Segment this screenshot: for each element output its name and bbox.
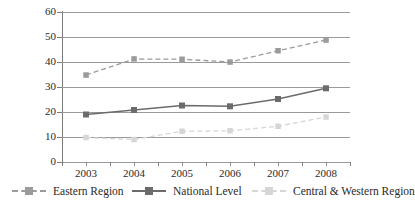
chart-legend: Eastern RegionNational LevelCentral & We… bbox=[0, 183, 391, 203]
x-axis-boundary-tick bbox=[254, 162, 255, 166]
data-point-marker bbox=[275, 48, 281, 54]
series-line bbox=[86, 40, 326, 75]
gridline bbox=[62, 12, 350, 13]
y-axis-tick-label: 0 bbox=[32, 156, 56, 167]
y-axis-tick bbox=[57, 137, 62, 138]
series-eastern-region bbox=[83, 37, 328, 78]
x-axis-boundary-tick bbox=[158, 162, 159, 166]
y-axis-tick bbox=[57, 87, 62, 88]
legend-marker-icon bbox=[145, 187, 153, 195]
x-axis-tick bbox=[326, 162, 327, 166]
gridline bbox=[62, 37, 350, 38]
data-point-marker bbox=[179, 103, 185, 109]
x-axis-tick-label: 2004 bbox=[114, 167, 154, 179]
x-axis-boundary-tick bbox=[62, 162, 63, 166]
gridline bbox=[62, 87, 350, 88]
y-axis-tick bbox=[57, 37, 62, 38]
legend-item-national-level[interactable]: National Level bbox=[132, 183, 242, 199]
x-axis-tick bbox=[86, 162, 87, 166]
x-axis-tick bbox=[182, 162, 183, 166]
legend-marker-icon bbox=[265, 187, 273, 195]
data-point-marker bbox=[323, 114, 329, 120]
y-axis-tick-label: 40 bbox=[32, 56, 56, 67]
data-point-marker bbox=[227, 103, 233, 109]
legend-swatch-icon bbox=[132, 185, 166, 197]
gridline bbox=[62, 112, 350, 113]
y-axis-tick-label: 30 bbox=[32, 81, 56, 92]
legend-swatch-icon bbox=[252, 185, 286, 197]
data-point-marker bbox=[83, 72, 89, 78]
legend-item-label: Central & Western Region bbox=[293, 184, 415, 198]
data-point-marker bbox=[275, 96, 281, 102]
x-axis-tick-label: 2008 bbox=[306, 167, 346, 179]
legend-item-eastern-region[interactable]: Eastern Region bbox=[12, 183, 124, 199]
y-axis-tick-label: 60 bbox=[32, 6, 56, 17]
y-axis-tick bbox=[57, 12, 62, 13]
series-line bbox=[86, 88, 326, 114]
x-axis-tick-label: 2007 bbox=[258, 167, 298, 179]
x-axis-boundary-tick bbox=[206, 162, 207, 166]
y-axis-tick-label: 50 bbox=[32, 31, 56, 42]
gridline bbox=[62, 137, 350, 138]
legend-marker-icon bbox=[25, 187, 33, 195]
legend-item-central-western-region[interactable]: Central & Western Region bbox=[252, 183, 415, 199]
x-axis-tick-label: 2006 bbox=[210, 167, 250, 179]
x-axis-tick-label: 2003 bbox=[66, 167, 106, 179]
x-axis-tick bbox=[278, 162, 279, 166]
x-axis-tick bbox=[230, 162, 231, 166]
x-axis-boundary-tick bbox=[110, 162, 111, 166]
x-axis-tick-label: 2005 bbox=[162, 167, 202, 179]
x-axis-boundary-tick bbox=[350, 162, 351, 166]
x-axis-boundary-tick bbox=[302, 162, 303, 166]
legend-item-label: Eastern Region bbox=[53, 184, 124, 198]
y-axis-tick bbox=[57, 112, 62, 113]
y-axis-tick-label: 10 bbox=[32, 131, 56, 142]
data-point-marker bbox=[275, 124, 281, 130]
series-central-western-region bbox=[83, 114, 328, 142]
gridline bbox=[62, 62, 350, 63]
data-point-marker bbox=[227, 128, 233, 134]
y-axis-tick-label: 20 bbox=[32, 106, 56, 117]
data-point-marker bbox=[179, 129, 185, 135]
legend-swatch-icon bbox=[12, 185, 46, 197]
data-point-marker bbox=[131, 56, 137, 62]
y-axis-tick bbox=[57, 62, 62, 63]
legend-item-label: National Level bbox=[173, 184, 242, 198]
x-axis-tick bbox=[134, 162, 135, 166]
data-point-marker bbox=[323, 37, 329, 43]
